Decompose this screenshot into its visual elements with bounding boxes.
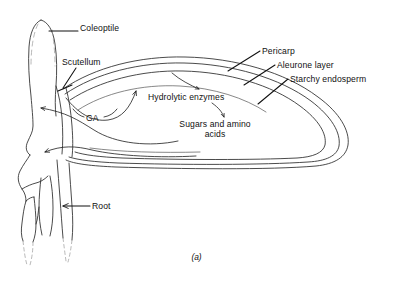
label-scutellum: Scutellum [62,57,101,67]
label-root: Root [92,201,111,211]
label-aleurone-layer: Aleurone layer [277,60,334,70]
embryo-root-outline [18,155,72,242]
label-hydrolytic-enzymes: Hydrolytic enzymes [148,92,224,102]
germination-figure: Coleoptile Scutellum GA Hydrolytic enzym… [0,0,393,282]
label-sugars-and-amino-acids: Sugars and amino acids [175,119,255,139]
ga-flow-arrow [66,91,136,120]
coleoptile-outline [26,20,56,155]
label-pericarp: Pericarp [262,46,295,56]
figure-caption: (a) [0,252,393,262]
scutellum-boundary [56,86,73,157]
nutrient-return-upper [41,108,178,144]
label-coleoptile: Coleoptile [80,23,119,33]
sugars-arrow [212,103,224,117]
label-ga: GA [86,113,99,123]
nutrient-return-lower [45,147,196,157]
label-starchy-endosperm: Starchy endosperm [290,74,366,84]
starchy-endosperm-outline [70,71,325,160]
seed-diagram-svg [0,0,393,282]
